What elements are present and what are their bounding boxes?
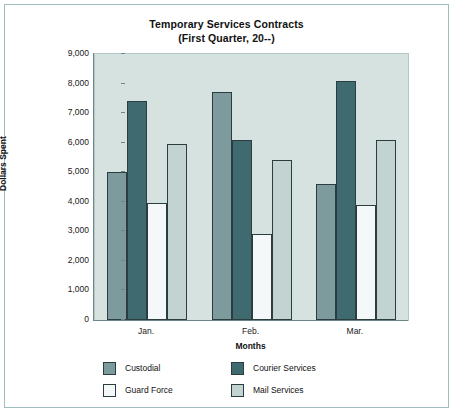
legend-label: Custodial xyxy=(125,363,160,373)
y-tick-label: 2,000 xyxy=(45,255,89,265)
bar xyxy=(167,144,187,320)
y-tick-label: 6,000 xyxy=(45,137,89,147)
y-tick-label: 3,000 xyxy=(45,225,89,235)
bar xyxy=(316,184,336,320)
legend-row: Guard ForceMail Services xyxy=(103,379,403,401)
plot-area xyxy=(94,53,409,321)
y-tick-mark xyxy=(121,201,125,202)
x-tick-label: Mar. xyxy=(315,326,395,336)
chart-legend: CustodialCourier ServicesGuard ForceMail… xyxy=(103,357,403,401)
bar-groups xyxy=(95,54,408,320)
y-tick-mark xyxy=(121,289,125,290)
legend-label: Guard Force xyxy=(125,385,173,395)
y-tick-mark xyxy=(121,171,125,172)
legend-swatch-icon xyxy=(103,384,116,397)
bar xyxy=(127,101,147,320)
y-tick-label: 8,000 xyxy=(45,78,89,88)
bar xyxy=(356,205,376,320)
legend-swatch-icon xyxy=(231,384,244,397)
y-axis-ticks: 9,0008,0007,0006,0005,0004,0003,0002,000… xyxy=(37,5,89,407)
x-tick-label: Feb. xyxy=(211,326,291,336)
x-axis-line xyxy=(93,320,408,321)
y-tick-label: 0 xyxy=(45,314,89,324)
bar xyxy=(147,203,167,320)
bar-group xyxy=(212,54,292,320)
y-tick-mark xyxy=(121,142,125,143)
legend-item-guard-force: Guard Force xyxy=(103,384,231,397)
y-tick-label: 5,000 xyxy=(45,166,89,176)
legend-item-mail-services: Mail Services xyxy=(231,384,359,397)
bar xyxy=(376,140,396,320)
bar xyxy=(107,172,127,320)
bar xyxy=(232,140,252,320)
y-tick-mark xyxy=(121,319,125,320)
y-tick-mark xyxy=(121,83,125,84)
y-tick-mark xyxy=(121,112,125,113)
y-tick-label: 4,000 xyxy=(45,196,89,206)
legend-swatch-icon xyxy=(103,362,116,375)
y-tick-mark xyxy=(121,260,125,261)
bar xyxy=(336,81,356,320)
chart-figure: Temporary Services Contracts (First Quar… xyxy=(4,4,449,408)
y-tick-mark xyxy=(121,53,125,54)
legend-label: Mail Services xyxy=(253,385,304,395)
legend-label: Courier Services xyxy=(253,363,316,373)
legend-row: CustodialCourier Services xyxy=(103,357,403,379)
x-tick-label: Jan. xyxy=(106,326,186,336)
y-tick-label: 1,000 xyxy=(45,284,89,294)
y-axis-line xyxy=(93,53,94,321)
bar xyxy=(212,92,232,320)
y-tick-mark xyxy=(121,230,125,231)
y-tick-label: 9,000 xyxy=(45,48,89,58)
bar xyxy=(252,234,272,320)
legend-item-courier-services: Courier Services xyxy=(231,362,359,375)
x-axis-label: Months xyxy=(94,341,407,351)
y-axis-label: Dollars Spent xyxy=(0,136,8,191)
bar-group xyxy=(107,54,187,320)
bar xyxy=(272,160,292,320)
legend-item-custodial: Custodial xyxy=(103,362,231,375)
bar-group xyxy=(316,54,396,320)
legend-swatch-icon xyxy=(231,362,244,375)
y-tick-label: 7,000 xyxy=(45,107,89,117)
